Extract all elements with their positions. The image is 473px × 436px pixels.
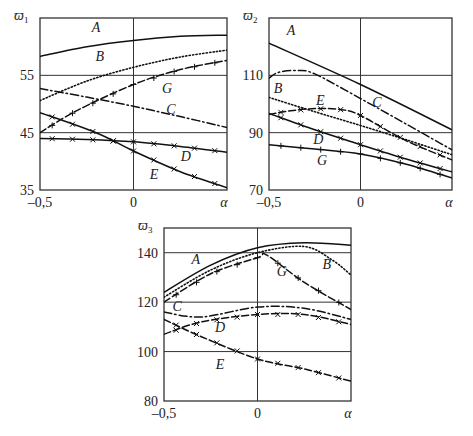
curve-label-B: B (322, 257, 331, 272)
plus-marker-icon (358, 151, 364, 157)
x-tick-label: 0 (130, 195, 137, 210)
curve-label-G: G (277, 264, 287, 279)
curve-label-E: E (215, 357, 225, 372)
curve-label-G: G (162, 81, 172, 96)
plus-marker-icon (397, 160, 403, 166)
y-tick-label: 120 (137, 295, 158, 310)
x-marker-icon (418, 144, 423, 149)
curve-label-A: A (91, 20, 101, 35)
figure-canvas: 354555–0,50αϖ1ABGCDE7090110–0,50αϖ2ABECD… (0, 0, 473, 436)
curve-label-B: B (96, 49, 105, 64)
curve-label-D: D (180, 149, 191, 164)
curve-label-A: A (286, 23, 296, 38)
plus-marker-icon (377, 155, 383, 161)
plus-marker-icon (212, 60, 218, 66)
y-tick-label: 90 (249, 126, 263, 141)
x-axis-label: α (344, 406, 352, 421)
y-tick-label: 55 (20, 68, 34, 83)
y-tick-label: 110 (243, 68, 263, 83)
y-axis-label: ϖ1 (14, 8, 28, 25)
y-tick-label: 140 (137, 246, 158, 261)
chart-panel-2: 7090110–0,50αϖ2ABECDG (243, 8, 454, 210)
x-tick-label: 0 (254, 406, 261, 421)
x-tick-label: –0,5 (256, 195, 282, 210)
chart-panel-1: 354555–0,50αϖ1ABGCDE (14, 8, 228, 210)
plus-marker-icon (417, 165, 423, 171)
plus-marker-icon (191, 64, 197, 70)
x-axis-label: α (220, 195, 228, 210)
y-tick-label: 100 (137, 345, 158, 360)
y-axis-label: ϖ2 (243, 8, 257, 25)
chart-panel-3: 80100120140–0,50αϖ3ABGCDE (137, 218, 352, 421)
plus-marker-icon (255, 255, 261, 261)
x-axis-label: α (445, 195, 453, 210)
x-tick-label: –0,5 (151, 406, 177, 421)
x-tick-label: –0,5 (27, 195, 53, 210)
plus-marker-icon (151, 75, 157, 81)
curve-label-G: G (317, 153, 327, 168)
curve-label-D: D (312, 132, 323, 147)
y-tick-label: 45 (20, 126, 34, 141)
plus-marker-icon (171, 69, 177, 75)
x-marker-icon (378, 124, 383, 129)
curve-label-C: C (172, 299, 182, 314)
x-marker-icon (316, 315, 321, 320)
curve-label-C: C (166, 102, 176, 117)
plus-marker-icon (278, 143, 284, 149)
plus-marker-icon (318, 147, 324, 153)
x-marker-icon (235, 348, 240, 353)
curve-label-A: A (191, 252, 201, 267)
x-tick-label: 0 (357, 195, 364, 210)
plus-marker-icon (338, 149, 344, 155)
curve-label-E: E (315, 93, 325, 108)
plus-marker-icon (437, 171, 443, 177)
curve-label-B: B (274, 81, 283, 96)
curve-label-E: E (149, 167, 159, 182)
plus-marker-icon (298, 145, 304, 151)
curve-label-D: D (214, 320, 225, 335)
y-axis-label: ϖ3 (138, 218, 153, 235)
plus-marker-icon (131, 82, 137, 88)
curve-label-C: C (372, 95, 382, 110)
